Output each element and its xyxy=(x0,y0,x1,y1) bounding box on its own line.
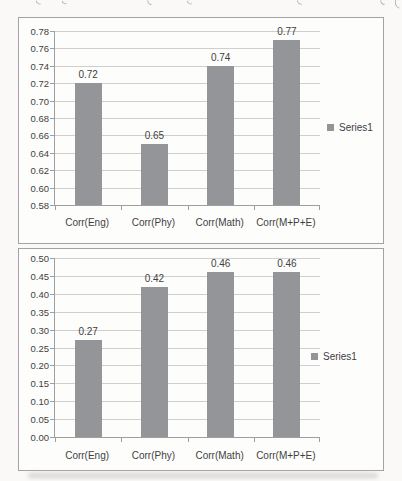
y-axis-tick xyxy=(50,66,54,67)
x-axis-tick xyxy=(188,438,189,442)
bar-value-label: 0.65 xyxy=(129,130,179,141)
plot-area: 0.270.420.460.46 xyxy=(54,258,320,438)
bar xyxy=(273,40,300,205)
y-tick-label: 0.72 xyxy=(31,78,50,89)
legend-swatch xyxy=(311,353,318,360)
y-axis-tick xyxy=(50,348,54,349)
text-remnant-mark xyxy=(393,0,402,9)
y-tick-label: 0.20 xyxy=(31,360,50,371)
legend: Series1 xyxy=(311,351,357,362)
plot-area: 0.720.650.740.77 xyxy=(54,31,320,206)
y-tick-label: 0.70 xyxy=(31,95,50,106)
y-axis-tick xyxy=(50,205,54,206)
legend-label: Series1 xyxy=(323,351,357,362)
y-axis-labels: 0.000.050.100.150.200.250.300.350.400.45… xyxy=(21,258,49,438)
bar xyxy=(75,340,102,437)
x-axis-tick xyxy=(319,206,320,210)
category-label: Corr(M+P+E) xyxy=(244,450,328,461)
y-axis-tick xyxy=(50,401,54,402)
y-tick-label: 0.15 xyxy=(31,378,50,389)
correlation-chart-top: 0.580.600.620.640.660.680.700.720.740.76… xyxy=(18,17,384,244)
bar-value-label: 0.27 xyxy=(63,326,113,337)
y-axis-labels: 0.580.600.620.640.660.680.700.720.740.76… xyxy=(21,31,49,206)
y-axis-tick xyxy=(50,437,54,438)
y-axis-tick xyxy=(50,365,54,366)
text-remnant-mark xyxy=(186,0,192,6)
y-axis-tick xyxy=(50,48,54,49)
bar-value-label: 0.72 xyxy=(63,69,113,80)
x-axis-tick xyxy=(254,206,255,210)
y-tick-label: 0.78 xyxy=(31,26,50,37)
bar-value-label: 0.42 xyxy=(129,273,179,284)
y-axis-tick xyxy=(50,83,54,84)
bar-value-label: 0.46 xyxy=(262,258,312,269)
y-axis-tick xyxy=(50,312,54,313)
x-axis-tick xyxy=(55,206,56,210)
bar xyxy=(141,287,168,437)
y-tick-label: 0.76 xyxy=(31,43,50,54)
x-axis-labels: Corr(Eng)Corr(Phy)Corr(Math)Corr(M+P+E) xyxy=(54,217,320,231)
y-tick-label: 0.74 xyxy=(31,60,50,71)
bar xyxy=(207,272,234,437)
text-remnant-mark xyxy=(61,0,67,6)
y-tick-label: 0.10 xyxy=(31,396,50,407)
x-axis-tick xyxy=(55,438,56,442)
y-tick-label: 0.50 xyxy=(31,253,50,264)
y-axis-tick xyxy=(50,153,54,154)
y-axis-tick xyxy=(50,276,54,277)
cropped-text-remnant xyxy=(0,0,402,10)
y-tick-label: 0.25 xyxy=(31,342,50,353)
text-remnant-mark xyxy=(297,0,303,5)
x-axis-tick xyxy=(121,206,122,210)
y-axis-tick xyxy=(50,101,54,102)
legend: Series1 xyxy=(327,122,373,133)
category-label: Corr(M+P+E) xyxy=(244,217,328,228)
y-tick-label: 0.62 xyxy=(31,165,50,176)
x-axis-tick xyxy=(319,438,320,442)
scanned-page: { "colors": { "page_bg": "#faf9f7", "fra… xyxy=(0,0,402,481)
y-tick-label: 0.30 xyxy=(31,324,50,335)
bar xyxy=(75,83,102,205)
y-tick-label: 0.35 xyxy=(31,306,50,317)
text-remnant-mark xyxy=(380,0,385,5)
y-axis-tick xyxy=(50,135,54,136)
y-axis-tick xyxy=(50,419,54,420)
x-axis-tick xyxy=(121,438,122,442)
text-remnant-mark xyxy=(36,0,42,5)
y-tick-label: 0.40 xyxy=(31,288,50,299)
y-axis-tick xyxy=(50,170,54,171)
bar-value-label: 0.77 xyxy=(262,26,312,37)
bar-value-label: 0.74 xyxy=(196,52,246,63)
x-axis-labels: Corr(Eng)Corr(Phy)Corr(Math)Corr(M+P+E) xyxy=(54,450,320,464)
legend-label: Series1 xyxy=(339,122,373,133)
legend-swatch xyxy=(327,124,334,131)
y-tick-label: 0.64 xyxy=(31,147,50,158)
bar xyxy=(207,66,234,205)
text-remnant-mark xyxy=(147,0,153,5)
y-axis-tick xyxy=(50,330,54,331)
y-axis-tick xyxy=(50,294,54,295)
y-tick-label: 0.00 xyxy=(31,432,50,443)
y-axis-tick xyxy=(50,188,54,189)
bar xyxy=(273,272,300,437)
x-axis-tick xyxy=(254,438,255,442)
y-tick-label: 0.45 xyxy=(31,270,50,281)
y-tick-label: 0.05 xyxy=(31,414,50,425)
page-shadow xyxy=(28,473,378,478)
y-axis-tick xyxy=(50,383,54,384)
bar-value-label: 0.46 xyxy=(196,258,246,269)
bar xyxy=(141,144,168,205)
y-axis-tick xyxy=(50,31,54,32)
y-tick-label: 0.66 xyxy=(31,130,50,141)
x-axis-tick xyxy=(188,206,189,210)
y-axis-tick xyxy=(50,118,54,119)
y-tick-label: 0.58 xyxy=(31,200,50,211)
y-tick-label: 0.68 xyxy=(31,113,50,124)
y-tick-label: 0.60 xyxy=(31,182,50,193)
correlation-chart-bottom: 0.000.050.100.150.200.250.300.350.400.45… xyxy=(18,248,384,471)
y-axis-tick xyxy=(50,258,54,259)
